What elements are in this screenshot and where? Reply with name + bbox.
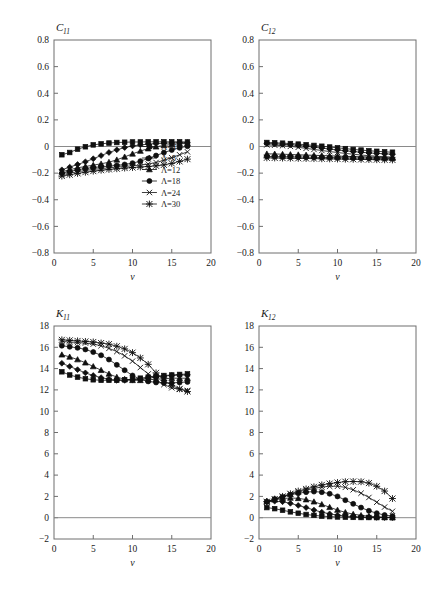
x-tick-label: 0 bbox=[257, 258, 262, 268]
legend-item-label: Λ=4 bbox=[161, 142, 177, 152]
chart-panel-c11: C11−0.8−0.6−0.4−0.200.20.40.60.805101520… bbox=[18, 14, 223, 299]
x-tick-label: 20 bbox=[206, 544, 216, 554]
y-tick-label: 18 bbox=[40, 321, 50, 331]
legend-item-label: Λ=12 bbox=[161, 165, 180, 175]
y-tick-label: 8 bbox=[44, 428, 49, 438]
chart-panel-k12: K12−202468101214161805101520v bbox=[223, 300, 428, 585]
x-tick-label: 5 bbox=[91, 258, 96, 268]
y-tick-label: 0.8 bbox=[37, 35, 49, 45]
y-tick-label: 0 bbox=[249, 142, 254, 152]
y-tick-label: 0.4 bbox=[37, 89, 49, 99]
panel-title-subscript: 12 bbox=[268, 27, 276, 36]
x-tick-label: 20 bbox=[411, 258, 421, 268]
panel-title-subscript: 12 bbox=[268, 313, 276, 322]
x-tick-label: 20 bbox=[411, 544, 421, 554]
x-tick-label: 15 bbox=[167, 544, 177, 554]
figure-container: C11−0.8−0.6−0.4−0.200.20.40.60.805101520… bbox=[0, 0, 436, 593]
y-tick-label: 4 bbox=[44, 470, 49, 480]
x-tick-label: 5 bbox=[296, 258, 301, 268]
x-tick-label: 20 bbox=[206, 258, 216, 268]
y-tick-label: 0.6 bbox=[242, 62, 254, 72]
y-tick-label: 0 bbox=[44, 142, 49, 152]
y-tick-label: 0 bbox=[249, 513, 254, 523]
y-tick-label: 4 bbox=[249, 470, 254, 480]
x-tick-label: 10 bbox=[333, 544, 343, 554]
y-tick-label: 6 bbox=[44, 449, 49, 459]
x-tick-label: 15 bbox=[372, 544, 382, 554]
y-tick-label: −0.6 bbox=[32, 222, 49, 232]
chart-panel-c12: C12−0.8−0.6−0.4−0.200.20.40.60.805101520… bbox=[223, 14, 428, 299]
legend-item-label: Λ=24 bbox=[161, 188, 181, 198]
x-tick-label: 15 bbox=[167, 258, 177, 268]
y-tick-label: 12 bbox=[40, 385, 50, 395]
panel-title-subscript: 11 bbox=[63, 313, 70, 322]
y-tick-label: 12 bbox=[245, 385, 255, 395]
y-tick-label: −0.4 bbox=[32, 195, 49, 205]
x-tick-label: 0 bbox=[257, 544, 262, 554]
x-tick-label: 0 bbox=[52, 544, 57, 554]
chart-panel-k11: K11−202468101214161805101520v bbox=[18, 300, 223, 585]
y-tick-label: −0.8 bbox=[32, 248, 49, 258]
x-axis-label: v bbox=[335, 271, 340, 282]
x-axis-label: v bbox=[335, 557, 340, 568]
y-tick-label: −2 bbox=[39, 534, 49, 544]
x-axis-label: v bbox=[130, 271, 135, 282]
x-tick-label: 10 bbox=[333, 258, 343, 268]
y-tick-label: −0.8 bbox=[237, 248, 254, 258]
x-axis-label: v bbox=[130, 557, 135, 568]
x-tick-label: 10 bbox=[128, 544, 138, 554]
y-tick-label: 16 bbox=[40, 343, 50, 353]
x-tick-label: 5 bbox=[91, 544, 96, 554]
y-tick-label: −2 bbox=[244, 534, 254, 544]
y-tick-label: 14 bbox=[245, 364, 255, 374]
y-tick-label: 10 bbox=[245, 407, 255, 417]
x-tick-label: 15 bbox=[372, 258, 382, 268]
y-tick-label: 0.2 bbox=[242, 115, 254, 125]
x-tick-label: 5 bbox=[296, 544, 301, 554]
y-tick-label: 0.4 bbox=[242, 89, 254, 99]
y-tick-label: 0.2 bbox=[37, 115, 49, 125]
y-tick-label: 2 bbox=[249, 492, 254, 502]
panel-title-subscript: 11 bbox=[63, 27, 70, 36]
y-tick-label: 0.8 bbox=[242, 35, 254, 45]
y-tick-label: 0.6 bbox=[37, 62, 49, 72]
y-tick-label: 16 bbox=[245, 343, 255, 353]
y-tick-label: −0.2 bbox=[32, 168, 49, 178]
y-tick-label: 14 bbox=[40, 364, 50, 374]
y-tick-label: 0 bbox=[44, 513, 49, 523]
y-tick-label: −0.4 bbox=[237, 195, 254, 205]
y-tick-label: −0.6 bbox=[237, 222, 254, 232]
legend-item-label: Λ=18 bbox=[161, 176, 180, 186]
y-tick-label: 10 bbox=[40, 407, 50, 417]
y-tick-label: 2 bbox=[44, 492, 49, 502]
y-tick-label: −0.2 bbox=[237, 168, 254, 178]
legend-item-label: Λ=30 bbox=[161, 199, 180, 209]
y-tick-label: 8 bbox=[249, 428, 254, 438]
x-tick-label: 0 bbox=[52, 258, 57, 268]
y-tick-label: 6 bbox=[249, 449, 254, 459]
legend-item-label: Λ=8 bbox=[161, 153, 176, 163]
x-tick-label: 10 bbox=[128, 258, 138, 268]
y-tick-label: 18 bbox=[245, 321, 255, 331]
